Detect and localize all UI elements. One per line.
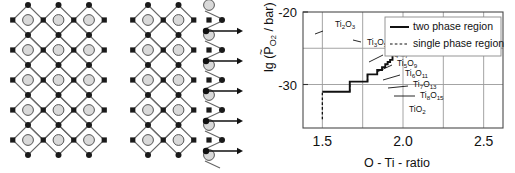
x-tick-label-1.5: 1.5 [313,133,333,149]
x-tick-label-2.5: 2.5 [474,133,494,149]
phase-label-ti3o5: Ti3O5 [367,37,388,48]
phase-label-ti8o15: Ti8O15 [420,90,444,101]
legend-label-solid: two phase region [413,20,493,32]
x-axis-label: O - Ti - ratio [364,156,430,170]
y-tick-label--30: -30 [278,78,297,93]
x-tick-labels: 1.52.02.5 [313,133,494,149]
phase-diagram-panel: Ti2O3Ti3O5Ti4O7Ti5O9Ti6O11Ti7O13Ti8O15Ti… [257,0,515,173]
phase-diagram-svg: Ti2O3Ti3O5Ti4O7Ti5O9Ti6O11Ti7O13Ti8O15Ti… [257,0,515,173]
figure-root: Ti2O3Ti3O5Ti4O7Ti5O9Ti6O11Ti7O13Ti8O15Ti… [0,0,515,173]
phase-label-ti2o3: Ti2O3 [335,19,356,30]
y-tick-label--20: -20 [278,5,297,20]
y-axis-label: lg (PO2 / bar) ~ [257,2,278,72]
ideal-lattice-group [10,2,107,158]
svg-text:lg (PO2 / bar): lg (PO2 / bar) [262,2,278,72]
lattice-svg [0,0,257,173]
phase-label-ti7o13: Ti7O13 [413,79,437,90]
legend-label-dashed: single phase region [413,37,504,49]
phase-label-ti6o11: Ti6O11 [405,68,429,79]
chart-legend: two phase regionsingle phase region [385,17,504,56]
sheared-lattice-group [130,0,225,168]
shear-direction-arrows-group [203,28,243,154]
phase-label-tio2: TiO2 [409,104,426,115]
x-tick-label-2.0: 2.0 [393,133,413,149]
lattice-diagram-panel [0,0,257,173]
y-tick-labels: -30-20 [278,5,297,93]
svg-text:~: ~ [257,49,267,55]
